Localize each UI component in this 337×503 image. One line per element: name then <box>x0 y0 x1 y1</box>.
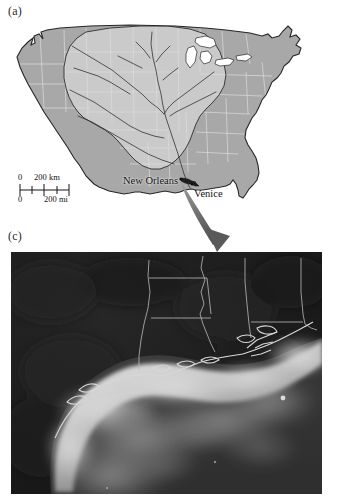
panel-label-c: (c) <box>8 229 22 244</box>
figure-root: (a) <box>0 0 337 503</box>
arrow-head <box>206 228 230 252</box>
scalebar-mi-zero: 0 <box>18 194 22 204</box>
scalebar-km-zero: 0 <box>18 172 22 182</box>
scalebar-km-max: 200 km <box>34 172 60 182</box>
connector-arrow <box>160 178 250 256</box>
map-scalebar: 0 200 km 0 200 mi <box>17 172 91 206</box>
satellite-image-gulf-of-mexico <box>11 252 322 494</box>
image-grain <box>11 252 322 494</box>
scalebar-mi-max: 200 mi <box>44 194 68 204</box>
